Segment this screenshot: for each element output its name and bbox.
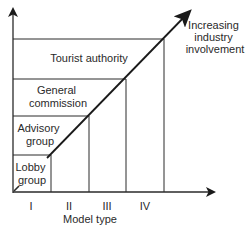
staircase-diagram: Increasing industry involvement Tourist … (0, 0, 247, 227)
x-axis-label: Model type (63, 213, 117, 225)
involvement-arrow-tail (14, 186, 19, 191)
step-label-lobby-group: Lobby group (15, 161, 48, 186)
step-label-general-commission: General commission (29, 84, 87, 109)
x-tick-iv: IV (140, 200, 151, 212)
x-tick-i: I (29, 200, 32, 212)
x-tick-ii: II (66, 200, 72, 212)
step-label-tourist-authority: Tourist authority (50, 52, 128, 64)
x-tick-iii: III (102, 200, 111, 212)
arrow-label: Increasing industry involvement (186, 19, 245, 55)
step-label-advisory-group: Advisory group (17, 122, 62, 147)
